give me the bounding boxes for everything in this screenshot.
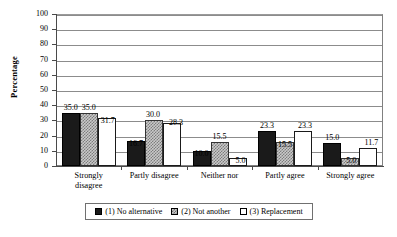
bar xyxy=(80,113,98,166)
bar-value-label: 16.7 xyxy=(127,140,145,148)
legend-item-label: (1) No alternative xyxy=(105,208,162,216)
y-tick-label: 0 xyxy=(8,162,48,170)
legend-swatch-icon xyxy=(171,208,178,215)
bar-value-label: 15.5 xyxy=(276,141,294,149)
y-tick-label: 90 xyxy=(8,25,48,33)
bar-value-label: 30.0 xyxy=(144,111,162,119)
x-tick-mark xyxy=(121,166,122,170)
bar-value-label: 11.7 xyxy=(362,139,380,147)
bar-chart: Percentage 1009080706050403020100 35.035… xyxy=(0,0,397,237)
x-axis-category-label: Strongly disagree xyxy=(56,171,121,191)
y-tick-label: 40 xyxy=(8,101,48,109)
bar-value-label: 23.3 xyxy=(296,122,314,130)
x-axis-category-label: Neither nor xyxy=(187,171,252,181)
x-tick-mark xyxy=(318,166,319,170)
bar-value-label: 5.0 xyxy=(232,157,250,165)
y-tick-label: 60 xyxy=(8,71,48,79)
y-tick-label: 80 xyxy=(8,40,48,48)
x-tick-mark xyxy=(252,166,253,170)
bar-value-label: 35.0 xyxy=(62,104,80,112)
legend-swatch-icon xyxy=(240,208,247,215)
x-axis-category-label: Strongly agree xyxy=(318,171,383,181)
bar xyxy=(359,148,377,166)
bar-value-label: 5.0 xyxy=(342,157,360,165)
y-tick-label: 10 xyxy=(8,147,48,155)
legend-item: (3) Replacement xyxy=(240,208,303,216)
bar-value-label: 35.0 xyxy=(80,104,98,112)
bar xyxy=(62,113,80,166)
x-axis-category-label: Partly disagree xyxy=(121,171,186,181)
bar-value-label: 28.3 xyxy=(167,119,185,127)
y-tick-label: 30 xyxy=(8,116,48,124)
bar xyxy=(323,143,341,166)
bars-layer xyxy=(56,14,383,166)
bar xyxy=(211,142,229,166)
y-tick-label: 70 xyxy=(8,56,48,64)
bar xyxy=(98,118,116,166)
y-tick-label: 50 xyxy=(8,86,48,94)
bar-value-label: 15.0 xyxy=(323,134,341,142)
bar-value-label: 15.5 xyxy=(211,133,229,141)
y-tick-label: 100 xyxy=(8,10,48,18)
y-tick-label: 20 xyxy=(8,132,48,140)
bar xyxy=(163,123,181,166)
legend: (1) No alternative(2) Not another(3) Rep… xyxy=(85,203,313,220)
legend-item: (1) No alternative xyxy=(95,208,162,216)
legend-swatch-icon xyxy=(95,208,102,215)
bar xyxy=(145,120,163,166)
bar xyxy=(258,131,276,166)
x-axis-category-label: Partly agree xyxy=(252,171,317,181)
bar xyxy=(294,131,312,166)
y-tick-mark xyxy=(52,166,56,167)
x-axis-line xyxy=(56,166,384,167)
x-tick-mark xyxy=(187,166,188,170)
bar-value-label: 23.3 xyxy=(258,122,276,130)
legend-item-label: (3) Replacement xyxy=(250,208,303,216)
bar-value-label: 10.0 xyxy=(193,150,211,158)
bar-value-label: 31.7 xyxy=(99,117,117,125)
legend-item-label: (2) Not another xyxy=(181,208,230,216)
legend-item: (2) Not another xyxy=(171,208,230,216)
